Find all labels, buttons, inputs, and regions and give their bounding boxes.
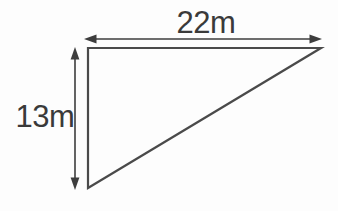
- triangle-shape: [88, 48, 321, 188]
- height-label: 13m: [16, 99, 75, 134]
- arrowhead-right-icon: [310, 35, 323, 44]
- triangle-diagram: 22m 13m: [0, 0, 338, 211]
- arrowhead-left-icon: [84, 35, 97, 44]
- diagram-canvas: 22m 13m: [0, 0, 338, 211]
- arrowhead-up-icon: [71, 47, 80, 60]
- arrowhead-down-icon: [71, 178, 80, 191]
- width-label: 22m: [177, 5, 236, 40]
